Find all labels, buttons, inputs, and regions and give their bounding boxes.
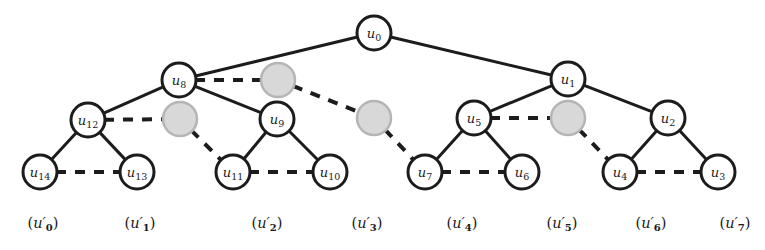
edge-u8-u12-solid — [103, 86, 165, 113]
edge-u9-u10-solid — [288, 130, 318, 160]
node-u4[interactable]: u4 — [603, 155, 637, 189]
ghost-node-g2[interactable] — [163, 102, 197, 136]
node-u1[interactable]: u1 — [551, 62, 585, 96]
leaf-caption-cap0: (u′0) — [28, 215, 59, 233]
node-u14[interactable]: u14 — [23, 155, 57, 189]
edge-u8-u9-solid — [194, 86, 262, 113]
leaf-caption-cap6: (u′6) — [636, 215, 667, 233]
ghost-node-g3[interactable] — [357, 101, 391, 135]
node-u2[interactable]: u2 — [651, 101, 685, 135]
node-u10[interactable]: u10 — [313, 155, 347, 189]
node-u3[interactable]: u3 — [701, 155, 735, 189]
node-u5[interactable]: u5 — [457, 101, 491, 135]
edge-g1-g3-dashed — [293, 86, 359, 112]
leaf-caption-cap5: (u′5) — [547, 215, 578, 233]
node-u13[interactable]: u13 — [120, 155, 154, 189]
node-u0[interactable]: u0 — [357, 16, 391, 50]
edge-u5-u7-solid — [436, 130, 463, 160]
leaf-caption-layer: (u′0)(u′1)(u′2)(u′3)(u′4)(u′5)(u′6)(u′7) — [28, 215, 751, 233]
node-u12[interactable]: u12 — [71, 103, 105, 137]
leaf-caption-cap1: (u′1) — [125, 215, 156, 233]
tree-svg-canvas: u0u8u1u12u9u5u2u14u13u11u10u7u6u4u3 (u′0… — [0, 0, 765, 250]
edge-u12-u14-solid — [51, 132, 77, 160]
edge-u5-u6-solid — [485, 130, 512, 160]
edge-u12-g2-dashed — [104, 119, 164, 120]
leaf-caption-cap7: (u′7) — [720, 215, 751, 233]
edge-u9-u11-solid — [243, 131, 267, 159]
node-u8[interactable]: u8 — [162, 63, 196, 97]
leaf-caption-cap2: (u′2) — [252, 215, 283, 233]
ghost-node-g1[interactable] — [261, 63, 295, 97]
edge-u12-u13-solid — [99, 132, 126, 161]
edge-u0-u1-solid — [390, 37, 553, 76]
edge-u1-u5-solid — [489, 85, 553, 112]
edge-u1-u2-solid — [583, 85, 653, 112]
leaf-caption-cap3: (u′3) — [352, 215, 383, 233]
tree-diagram: u0u8u1u12u9u5u2u14u13u11u10u7u6u4u3 (u′0… — [0, 0, 765, 250]
node-u6[interactable]: u6 — [505, 155, 539, 189]
node-u7[interactable]: u7 — [408, 155, 442, 189]
edge-g2-u11-dashed — [191, 130, 221, 160]
leaf-caption-cap4: (u′4) — [447, 215, 478, 233]
node-u9[interactable]: u9 — [260, 102, 294, 136]
edge-u2-u3-solid — [679, 130, 707, 161]
edge-u2-u4-solid — [631, 130, 658, 160]
ghost-node-g4[interactable] — [551, 101, 585, 135]
node-u11[interactable]: u11 — [216, 155, 250, 189]
edge-g3-u7-dashed — [385, 130, 414, 161]
edge-g4-u4-dashed — [579, 130, 609, 161]
